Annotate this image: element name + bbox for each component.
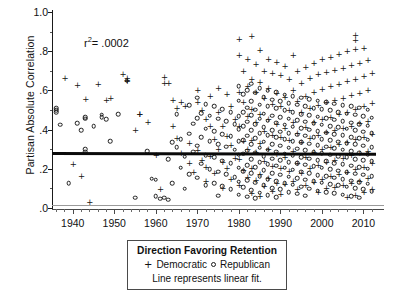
x-tick-minor xyxy=(305,209,306,212)
data-point-republican xyxy=(241,124,246,129)
x-tick-minor xyxy=(247,209,248,212)
y-tick-minor xyxy=(50,110,53,111)
x-tick-minor xyxy=(131,209,132,212)
data-point-republican xyxy=(266,162,271,167)
data-point-republican xyxy=(166,157,171,162)
data-point-republican xyxy=(224,145,229,150)
x-tick-minor xyxy=(172,209,173,212)
x-tick-minor xyxy=(314,209,315,212)
x-tick-minor xyxy=(347,209,348,212)
data-point-republican xyxy=(336,125,341,130)
data-point-republican xyxy=(282,92,287,97)
data-point-republican xyxy=(295,192,300,197)
data-point-republican xyxy=(295,132,300,137)
data-point-republican xyxy=(340,162,345,167)
x-tick-mark xyxy=(363,209,364,214)
data-point-republican xyxy=(332,118,337,123)
data-point-republican xyxy=(320,180,325,185)
data-point-republican xyxy=(324,174,329,179)
data-point-republican xyxy=(361,172,366,177)
data-point-republican xyxy=(365,123,370,128)
data-point-republican xyxy=(340,147,345,152)
data-point-republican xyxy=(291,183,296,188)
data-point-republican xyxy=(220,184,225,189)
data-point-republican xyxy=(286,131,291,136)
data-point-republican xyxy=(241,92,246,97)
data-point-democratic xyxy=(82,96,88,102)
y-tick-mark xyxy=(48,12,52,13)
data-point-republican xyxy=(216,142,221,147)
x-tick-minor xyxy=(81,209,82,212)
x-tick-label: 2000 xyxy=(310,217,333,229)
data-point-republican xyxy=(295,147,300,152)
data-point-democratic xyxy=(306,75,312,81)
data-point-democratic xyxy=(265,56,271,62)
data-point-democratic xyxy=(252,61,258,67)
x-tick-label: 2010 xyxy=(352,217,375,229)
data-point-democratic xyxy=(194,87,200,93)
x-tick-minor xyxy=(181,209,182,212)
data-point-republican xyxy=(207,114,212,119)
data-point-democratic xyxy=(340,95,346,101)
data-point-republican xyxy=(365,181,370,186)
y-axis-title: Partisan Absolute Correlation xyxy=(24,10,40,200)
x-tick-label: 1960 xyxy=(144,217,167,229)
data-point-republican xyxy=(303,163,308,168)
data-point-democratic xyxy=(223,91,229,97)
data-point-republican xyxy=(249,113,254,118)
data-point-republican xyxy=(361,143,366,148)
data-point-republican xyxy=(266,193,271,198)
data-point-republican xyxy=(336,110,341,115)
data-point-republican xyxy=(220,158,225,163)
data-point-republican xyxy=(299,140,304,145)
data-point-republican xyxy=(291,167,296,172)
data-point-republican xyxy=(336,139,341,144)
data-point-republican xyxy=(183,186,188,191)
data-point-republican xyxy=(266,177,271,182)
y-tick-label: .2 xyxy=(39,163,48,175)
x-tick-mark xyxy=(73,209,74,214)
y-tick-mark xyxy=(48,169,52,170)
data-point-republican xyxy=(261,125,266,130)
data-point-republican xyxy=(320,107,325,112)
data-point-republican xyxy=(278,172,283,177)
data-point-republican xyxy=(270,156,275,161)
data-point-republican xyxy=(178,137,183,142)
x-tick-minor xyxy=(272,209,273,212)
y-tick-mark xyxy=(48,130,52,131)
data-point-republican xyxy=(241,110,246,115)
legend-circle-icon xyxy=(211,262,216,267)
data-point-republican xyxy=(249,81,254,86)
data-point-democratic xyxy=(257,79,263,85)
y-tick-minor xyxy=(50,71,53,72)
data-point-republican xyxy=(365,167,370,172)
data-point-republican xyxy=(245,134,250,139)
data-point-republican xyxy=(340,177,345,182)
data-point-republican xyxy=(291,94,296,99)
data-point-republican xyxy=(336,168,341,173)
data-point-republican xyxy=(124,78,129,83)
data-point-republican xyxy=(237,179,242,184)
data-point-republican xyxy=(216,117,221,122)
data-point-republican xyxy=(183,154,188,159)
data-point-democratic xyxy=(282,63,288,69)
data-point-republican xyxy=(253,90,258,95)
y-tick-mark xyxy=(48,51,52,52)
data-point-republican xyxy=(344,111,349,116)
data-point-republican xyxy=(170,140,175,145)
data-point-republican xyxy=(332,191,337,196)
data-point-republican xyxy=(274,164,279,169)
data-point-republican xyxy=(369,116,374,121)
data-point-republican xyxy=(245,119,250,124)
data-point-republican xyxy=(116,112,121,117)
data-point-republican xyxy=(253,107,258,112)
data-point-republican xyxy=(257,102,262,107)
data-point-republican xyxy=(245,178,250,183)
data-point-republican xyxy=(303,104,308,109)
data-point-republican xyxy=(286,174,291,179)
data-point-republican xyxy=(299,96,304,101)
data-point-republican xyxy=(274,179,279,184)
data-point-republican xyxy=(311,106,316,111)
data-point-republican xyxy=(282,137,287,142)
data-point-republican xyxy=(178,166,183,171)
